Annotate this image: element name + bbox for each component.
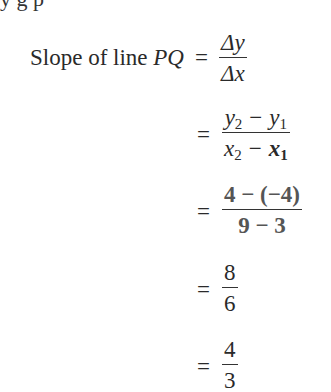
slope-label-text: Slope of line xyxy=(30,45,153,70)
fraction-delta: Δy Δx xyxy=(219,31,247,85)
numerator: Δy xyxy=(219,31,247,54)
denominator: Δx xyxy=(219,62,247,85)
equals-sign: = xyxy=(197,123,210,146)
clipped-text: y g p xyxy=(0,0,44,11)
subscript: 1 xyxy=(280,116,288,132)
fraction-bar xyxy=(222,287,238,288)
var-x: x xyxy=(269,136,281,161)
delta-y: Δy xyxy=(221,30,245,55)
fraction-result: 4 3 xyxy=(222,338,238,392)
fraction-coordinates: y2−y1 x2−x1 xyxy=(222,106,290,160)
equals-sign: = xyxy=(197,278,210,301)
denominator: 6 xyxy=(222,292,238,315)
delta-x: Δx xyxy=(221,61,245,86)
subscript: 2 xyxy=(234,147,242,163)
fraction-bar xyxy=(222,209,302,210)
equals-sign: = xyxy=(195,46,208,69)
var-y: y xyxy=(269,105,279,130)
equals-sign: = xyxy=(197,200,210,223)
fraction-simplified: 8 6 xyxy=(222,261,238,315)
numerator: 8 xyxy=(222,261,238,284)
var-y: y xyxy=(225,105,235,130)
slope-label: Slope of line PQ xyxy=(30,46,184,69)
subscript: 1 xyxy=(280,147,288,163)
equals-sign: = xyxy=(197,355,210,378)
fraction-bar xyxy=(219,57,247,58)
fraction-substituted: 4 − (−4) 9 − 3 xyxy=(222,183,302,237)
subscript: 2 xyxy=(235,116,243,132)
denominator: 9 − 3 xyxy=(236,214,288,237)
clipped-previous-line: y g p xyxy=(0,0,331,12)
fraction-bar xyxy=(222,132,290,133)
denominator: x2−x1 xyxy=(222,137,290,160)
numerator: 4 − (−4) xyxy=(222,183,302,206)
numerator: 4 xyxy=(222,338,238,361)
fraction-bar xyxy=(222,364,238,365)
var-x: x xyxy=(224,136,234,161)
line-name: PQ xyxy=(153,45,184,70)
minus-sign: − xyxy=(249,105,262,130)
denominator: 3 xyxy=(222,369,238,392)
minus-sign: − xyxy=(249,136,262,161)
numerator: y2−y1 xyxy=(223,106,289,129)
